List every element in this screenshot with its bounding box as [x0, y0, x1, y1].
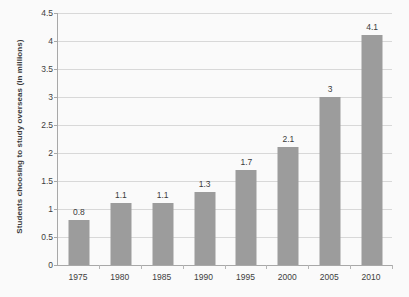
y-axis-tick-label: 3	[13, 92, 53, 102]
bar-value-label: 1.3	[199, 179, 211, 189]
bar[interactable]	[68, 220, 89, 265]
bar-value-label: 3	[328, 84, 333, 94]
bar-value-label: 4.1	[366, 22, 378, 32]
plot-area: 0.81.11.11.31.72.134.1	[57, 13, 392, 265]
x-axis-tick-mark	[141, 265, 142, 269]
bar-slot: 2.1	[267, 13, 309, 265]
x-axis-tick-label: 1980	[97, 272, 143, 282]
x-axis-tick-label: 1990	[181, 272, 227, 282]
bar[interactable]	[152, 203, 173, 265]
x-axis-tick-mark	[225, 265, 226, 269]
bar[interactable]	[236, 170, 257, 265]
y-axis-tick-label: 0	[13, 260, 53, 270]
bar-slot: 1.1	[142, 13, 184, 265]
x-axis-tick-label: 2000	[264, 272, 310, 282]
x-axis-tick-label: 1995	[222, 272, 268, 282]
bar-value-label: 0.8	[73, 207, 85, 217]
x-axis-tick-mark	[350, 265, 351, 269]
y-axis-tick-mark	[54, 265, 58, 266]
x-axis-tick-mark	[308, 265, 309, 269]
bar-slot: 3	[309, 13, 351, 265]
y-axis-tick-label: 4.5	[13, 8, 53, 18]
bar-slot: 1.1	[100, 13, 142, 265]
x-axis-tick-label: 1975	[55, 272, 101, 282]
bar[interactable]	[110, 203, 131, 265]
x-axis-tick-mark	[99, 265, 100, 269]
bar-value-label: 1.7	[241, 157, 253, 167]
x-axis-tick-mark	[266, 265, 267, 269]
y-axis-tick-label: 0.5	[13, 232, 53, 242]
bar-value-label: 2.1	[282, 134, 294, 144]
x-axis-tick-mark	[183, 265, 184, 269]
bar[interactable]	[320, 97, 341, 265]
bar-slot: 1.7	[226, 13, 268, 265]
bar-slot: 4.1	[351, 13, 393, 265]
bar[interactable]	[194, 192, 215, 265]
bar-value-label: 1.1	[115, 190, 127, 200]
y-axis-tick-label: 2	[13, 148, 53, 158]
x-axis-tick-mark	[392, 265, 393, 269]
y-axis-tick-label: 1	[13, 204, 53, 214]
bar-slot: 1.3	[184, 13, 226, 265]
bar[interactable]	[362, 35, 383, 265]
bar-chart: Students choosing to study overseas (in …	[0, 0, 409, 297]
bar-value-label: 1.1	[157, 190, 169, 200]
y-axis-tick-label: 2.5	[13, 120, 53, 130]
bar-slot: 0.8	[58, 13, 100, 265]
x-axis-tick-label: 1985	[139, 272, 185, 282]
y-axis-tick-label: 4	[13, 36, 53, 46]
x-axis-tick-label: 2010	[348, 272, 394, 282]
x-axis-tick-label: 2005	[306, 272, 352, 282]
y-axis-tick-label: 1.5	[13, 176, 53, 186]
y-axis-tick-label: 3.5	[13, 64, 53, 74]
bar[interactable]	[278, 147, 299, 265]
